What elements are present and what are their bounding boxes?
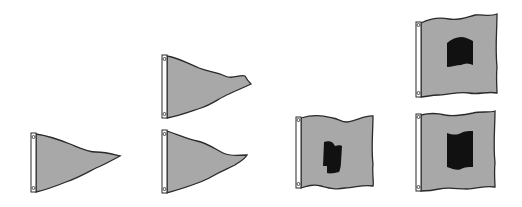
pennant-flag-3 bbox=[161, 129, 253, 195]
square-flag-icon bbox=[415, 109, 499, 193]
pennant-icon bbox=[30, 132, 122, 194]
pennant-icon bbox=[161, 54, 253, 120]
square-flag-icon bbox=[295, 112, 375, 192]
pennant-flag-2 bbox=[161, 54, 253, 120]
square-flag-icon bbox=[415, 11, 499, 99]
square-flag-2 bbox=[415, 11, 499, 99]
square-flag-1 bbox=[295, 112, 375, 192]
pennant-flag-1 bbox=[30, 132, 122, 194]
pennant-icon bbox=[161, 129, 253, 195]
square-flag-3 bbox=[415, 109, 499, 193]
